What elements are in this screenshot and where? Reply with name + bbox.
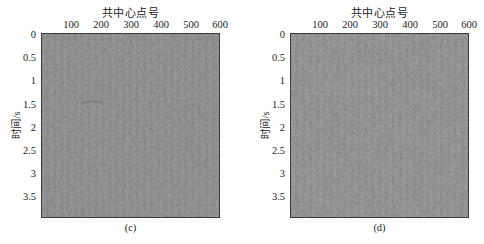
y-axis-title: 时间/s bbox=[257, 111, 272, 138]
x-tick-label: 500 bbox=[432, 19, 448, 30]
panel-c: 共中心点号 100 200 300 400 500 600 0 0.5 1 1.… bbox=[0, 0, 242, 244]
y-tick-label: 0.5 bbox=[6, 52, 36, 63]
seismic-section-c bbox=[41, 33, 220, 218]
x-tick-label: 500 bbox=[183, 19, 199, 30]
x-tick-label: 200 bbox=[93, 19, 109, 30]
y-tick-label: 3.5 bbox=[6, 191, 36, 202]
y-tick-label: 2.5 bbox=[6, 145, 36, 156]
y-tick-label: 0 bbox=[255, 29, 285, 40]
panel-d: 共中心点号 100 200 300 400 500 600 0 0.5 1 1.… bbox=[249, 0, 484, 244]
seismic-section-d bbox=[290, 33, 469, 218]
x-tick-label: 100 bbox=[63, 19, 79, 30]
y-tick-label: 2.5 bbox=[255, 145, 285, 156]
x-axis-title: 共中心点号 bbox=[290, 4, 469, 20]
y-tick-label: 1 bbox=[6, 75, 36, 86]
x-axis-title: 共中心点号 bbox=[41, 4, 220, 20]
x-tick-label: 200 bbox=[342, 19, 358, 30]
panel-caption: (c) bbox=[41, 222, 220, 233]
x-tick-label: 300 bbox=[372, 19, 388, 30]
x-tick-label: 400 bbox=[402, 19, 418, 30]
x-tick-label: 100 bbox=[312, 19, 328, 30]
x-tick-label: 600 bbox=[212, 19, 228, 30]
x-tick-label: 400 bbox=[153, 19, 169, 30]
panel-caption: (d) bbox=[290, 222, 469, 233]
y-tick-label: 1 bbox=[255, 75, 285, 86]
x-tick-label: 600 bbox=[461, 19, 477, 30]
y-tick-label: 1.5 bbox=[6, 99, 36, 110]
x-tick-label: 300 bbox=[123, 19, 139, 30]
y-tick-label: 3.5 bbox=[255, 191, 285, 202]
y-tick-label: 3 bbox=[6, 168, 36, 179]
y-tick-label: 0.5 bbox=[255, 52, 285, 63]
y-tick-label: 0 bbox=[6, 29, 36, 40]
y-tick-label: 3 bbox=[255, 168, 285, 179]
y-tick-label: 1.5 bbox=[255, 99, 285, 110]
y-axis-title: 时间/s bbox=[8, 111, 23, 138]
